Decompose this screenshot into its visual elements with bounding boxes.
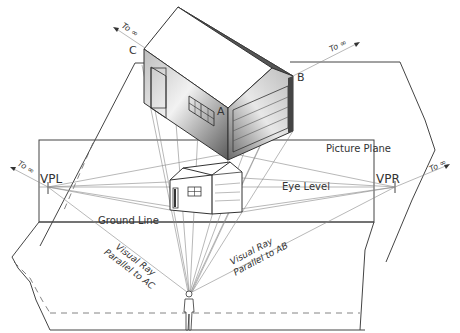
house-projection — [170, 162, 242, 214]
point-c-label: C — [129, 44, 137, 57]
point-a-label: A — [217, 105, 225, 118]
svg-text:VPL: VPL — [40, 172, 62, 186]
house-3d — [144, 7, 293, 160]
perspective-diagram: Picture Plane Eye Level Ground Line VPL … — [0, 0, 460, 333]
picture-plane-label: Picture Plane — [326, 143, 391, 154]
visual-ray-ac-label: Visual Ray Parallel to AC — [102, 238, 163, 292]
vanishing-point-right: VPR — [376, 172, 400, 193]
observer-figure — [184, 291, 194, 330]
point-b-label: B — [297, 71, 305, 84]
ground-line-label: Ground Line — [98, 215, 159, 226]
svg-text:To ∞: To ∞ — [328, 38, 348, 54]
visual-ray-ab-label: Visual Ray Parallel to AB — [226, 231, 289, 278]
svg-text:To ∞: To ∞ — [16, 159, 36, 176]
svg-text:To ∞: To ∞ — [120, 21, 140, 38]
to-infinity-vpr: To ∞ — [395, 157, 450, 187]
ground-plane-lower — [12, 222, 374, 330]
vanishing-point-left: VPL — [40, 172, 62, 194]
